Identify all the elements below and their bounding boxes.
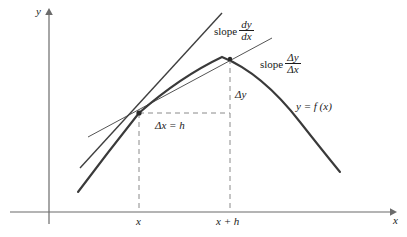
delta-x-label: Δx = h <box>155 120 185 131</box>
tangent-line <box>80 13 222 168</box>
secant-slope-denominator: Δx <box>285 64 300 75</box>
diagram-canvas <box>0 0 407 237</box>
point-of-tangency-marker <box>136 110 141 115</box>
tick-label-x: x <box>136 216 141 227</box>
tangent-slope-fraction: dydx <box>239 19 253 42</box>
secant-slope-word: slope <box>260 58 283 70</box>
y-axis-label: y <box>36 6 41 17</box>
tick-label-x-plus-h: x + h <box>216 216 239 227</box>
function-curve <box>78 57 340 192</box>
x-axis-label: x <box>393 215 398 226</box>
tangent-slope-word: slope <box>214 25 237 37</box>
tangent-slope-denominator: dx <box>239 31 253 42</box>
function-label: y = f (x) <box>296 101 332 112</box>
secant-slope-fraction: ΔyΔx <box>285 52 300 75</box>
y-axis-arrow-icon <box>45 8 53 15</box>
secant-slope-label: slopeΔyΔx <box>260 54 301 77</box>
derivative-diagram: y x slopedydx slopeΔyΔx Δy Δx = h y = f … <box>0 0 407 237</box>
secant-second-point-marker <box>228 57 232 61</box>
delta-y-label: Δy <box>235 89 246 100</box>
tangent-slope-label: slopedydx <box>214 21 254 44</box>
